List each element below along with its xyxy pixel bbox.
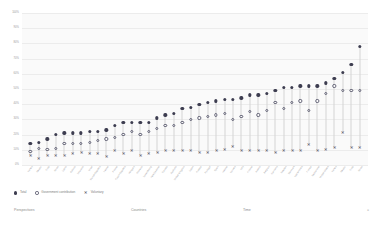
marker-voluntary[interactable] — [71, 152, 75, 156]
marker-total[interactable] — [198, 103, 201, 106]
marker-voluntary[interactable] — [332, 146, 336, 150]
marker-government-contribution[interactable] — [147, 130, 150, 133]
marker-government-contribution[interactable] — [333, 84, 336, 87]
marker-government-contribution[interactable] — [282, 107, 285, 110]
marker-total[interactable] — [147, 121, 150, 124]
marker-voluntary[interactable] — [231, 145, 235, 149]
marker-voluntary[interactable] — [130, 149, 134, 153]
marker-total[interactable] — [248, 93, 251, 96]
marker-voluntary[interactable] — [189, 149, 193, 153]
marker-voluntary[interactable] — [172, 149, 176, 153]
marker-total[interactable] — [240, 96, 243, 99]
footer-countries[interactable]: Countries — [131, 209, 146, 213]
marker-government-contribution[interactable] — [265, 109, 268, 112]
legend-item[interactable]: Total — [14, 191, 26, 195]
marker-total[interactable] — [113, 124, 116, 127]
marker-total[interactable] — [333, 77, 336, 80]
marker-total[interactable] — [181, 107, 184, 110]
marker-total[interactable] — [96, 130, 99, 133]
marker-total[interactable] — [358, 45, 361, 48]
marker-voluntary[interactable] — [273, 151, 277, 155]
marker-government-contribution[interactable] — [307, 109, 310, 112]
marker-government-contribution[interactable] — [214, 113, 217, 116]
marker-voluntary[interactable] — [239, 149, 243, 153]
marker-government-contribution[interactable] — [324, 92, 327, 95]
marker-total[interactable] — [223, 98, 226, 101]
marker-government-contribution[interactable] — [79, 142, 82, 145]
marker-total[interactable] — [324, 81, 327, 84]
marker-total[interactable] — [88, 130, 91, 133]
marker-voluntary[interactable] — [265, 149, 269, 153]
footer-perspectives[interactable]: Perspectives — [14, 209, 35, 213]
marker-voluntary[interactable] — [45, 154, 49, 158]
marker-total[interactable] — [138, 121, 141, 124]
marker-government-contribution[interactable] — [223, 112, 226, 115]
marker-voluntary[interactable] — [282, 149, 286, 153]
marker-voluntary[interactable] — [96, 152, 100, 156]
marker-total[interactable] — [257, 93, 260, 96]
marker-government-contribution[interactable] — [172, 124, 175, 127]
footer-time[interactable]: Time — [243, 209, 251, 213]
marker-government-contribution[interactable] — [46, 148, 49, 151]
marker-voluntary[interactable] — [37, 157, 41, 161]
marker-voluntary[interactable] — [197, 151, 201, 155]
marker-government-contribution[interactable] — [138, 133, 141, 136]
marker-government-contribution[interactable] — [358, 89, 361, 92]
marker-voluntary[interactable] — [256, 149, 260, 153]
marker-total[interactable] — [122, 121, 125, 124]
marker-voluntary[interactable] — [298, 149, 302, 153]
marker-total[interactable] — [189, 106, 192, 109]
marker-voluntary[interactable] — [62, 154, 66, 158]
marker-government-contribution[interactable] — [189, 118, 192, 121]
marker-voluntary[interactable] — [307, 143, 311, 147]
marker-voluntary[interactable] — [349, 146, 353, 150]
marker-government-contribution[interactable] — [248, 110, 251, 113]
marker-total[interactable] — [164, 113, 167, 116]
marker-government-contribution[interactable] — [231, 118, 234, 121]
marker-voluntary[interactable] — [138, 154, 142, 158]
marker-government-contribution[interactable] — [113, 136, 116, 139]
marker-total[interactable] — [37, 141, 40, 144]
marker-government-contribution[interactable] — [130, 130, 133, 133]
marker-total[interactable] — [273, 89, 276, 92]
marker-voluntary[interactable] — [79, 151, 83, 155]
marker-government-contribution[interactable] — [341, 89, 344, 92]
marker-total[interactable] — [307, 84, 310, 87]
marker-government-contribution[interactable] — [96, 139, 99, 142]
marker-voluntary[interactable] — [88, 152, 92, 156]
marker-government-contribution[interactable] — [62, 142, 65, 145]
marker-voluntary[interactable] — [163, 149, 167, 153]
marker-total[interactable] — [46, 137, 49, 140]
marker-voluntary[interactable] — [223, 148, 227, 152]
marker-government-contribution[interactable] — [88, 141, 91, 144]
marker-government-contribution[interactable] — [105, 137, 108, 140]
marker-total[interactable] — [54, 133, 57, 136]
marker-government-contribution[interactable] — [240, 115, 243, 118]
marker-total[interactable] — [349, 63, 352, 66]
marker-government-contribution[interactable] — [206, 115, 209, 118]
marker-government-contribution[interactable] — [164, 124, 167, 127]
marker-voluntary[interactable] — [28, 154, 32, 158]
marker-total[interactable] — [29, 142, 32, 145]
marker-government-contribution[interactable] — [316, 99, 319, 102]
marker-government-contribution[interactable] — [257, 113, 260, 116]
marker-voluntary[interactable] — [121, 152, 125, 156]
marker-voluntary[interactable] — [341, 131, 345, 135]
marker-government-contribution[interactable] — [29, 150, 32, 153]
marker-voluntary[interactable] — [214, 149, 218, 153]
marker-total[interactable] — [316, 84, 319, 87]
marker-voluntary[interactable] — [358, 146, 362, 150]
marker-voluntary[interactable] — [206, 151, 210, 155]
marker-voluntary[interactable] — [113, 149, 117, 153]
marker-government-contribution[interactable] — [349, 89, 352, 92]
marker-total[interactable] — [130, 121, 133, 124]
marker-total[interactable] — [172, 112, 175, 115]
marker-voluntary[interactable] — [315, 149, 319, 153]
marker-government-contribution[interactable] — [155, 127, 158, 130]
marker-voluntary[interactable] — [155, 151, 159, 155]
marker-total[interactable] — [265, 92, 268, 95]
marker-total[interactable] — [231, 98, 234, 101]
legend-item[interactable]: Voluntary — [84, 191, 103, 195]
marker-voluntary[interactable] — [290, 149, 294, 153]
marker-total[interactable] — [105, 128, 108, 131]
